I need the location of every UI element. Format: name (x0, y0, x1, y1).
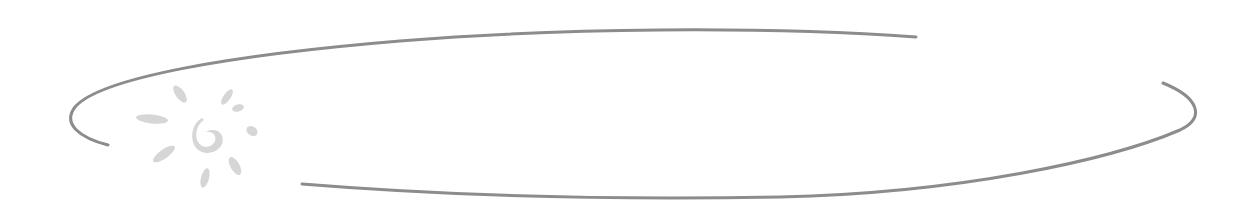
sun-logo-icon (136, 83, 260, 188)
ellipse-lower-arc (302, 83, 1195, 198)
ellipse-frame (0, 0, 1256, 214)
banner-graphic (0, 0, 1256, 214)
